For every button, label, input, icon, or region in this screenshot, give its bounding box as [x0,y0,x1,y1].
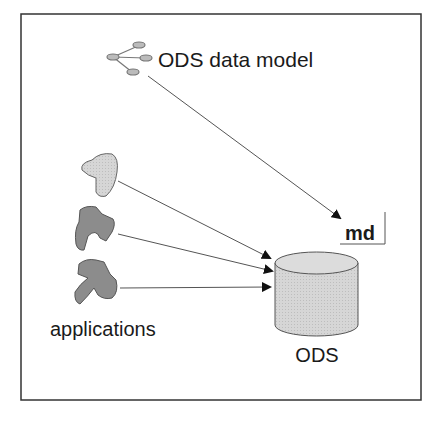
diagram-canvas: ODS data model md applications ODS [0,0,440,421]
applications-label: applications [50,318,156,340]
ods-data-model-label: ODS data model [158,48,313,71]
database-cylinder-icon [275,252,358,336]
application-blob-2 [75,206,114,250]
application-blob-3 [75,260,117,305]
arrow-app1-to-ods [118,181,270,258]
application-blob-1 [82,154,118,197]
md-label: md [345,222,375,244]
diagram-frame [21,14,421,400]
md-box: md [340,212,385,244]
ods-label: ODS [295,344,338,366]
tree-hierarchy-icon [107,42,152,75]
arrow-app3-to-ods [120,287,270,288]
arrow-model-to-md [148,76,340,218]
arrow-app2-to-ods [118,234,272,271]
